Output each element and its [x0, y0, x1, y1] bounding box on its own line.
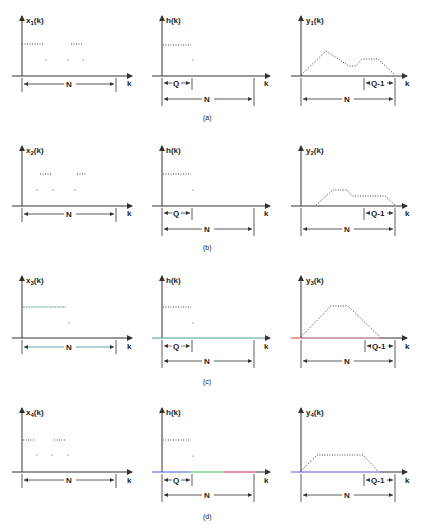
h-label: h(k): [166, 276, 181, 285]
x3-label: x3(k): [26, 276, 44, 286]
k-label: k: [127, 342, 132, 351]
k-label: k: [264, 476, 269, 485]
dim-q1: Q-1: [371, 209, 385, 218]
k-label: k: [405, 209, 410, 218]
x2-label: x2(k): [26, 146, 44, 156]
plot-y2: y2(k) Q-1 N k: [291, 146, 410, 236]
dim-n: N: [204, 357, 210, 366]
dim-n: N: [344, 95, 350, 104]
dim-n: N: [66, 343, 72, 352]
k-label: k: [264, 209, 269, 218]
plot-h-c: h(k) Q N k (c): [152, 276, 270, 386]
row-a: x1(k) N k h(k) Q N k: [12, 16, 410, 122]
row-d: x4(k) N k h(k) Q: [12, 408, 410, 521]
k-label: k: [127, 209, 132, 218]
plot-y1: y1(k) Q-1 N k: [291, 16, 410, 106]
x4-label: x4(k): [26, 408, 44, 418]
dim-n: N: [66, 476, 72, 485]
k-label: k: [405, 476, 410, 485]
k-label: k: [264, 79, 269, 88]
dim-n: N: [66, 210, 72, 219]
caption-d: (d): [203, 513, 212, 521]
dim-n: N: [204, 95, 210, 104]
k-label: k: [405, 342, 410, 351]
row-c: x3(k) N k h(k) Q N k (c): [12, 276, 410, 386]
plot-x2: x2(k) N k: [12, 146, 132, 222]
dim-q1: Q-1: [371, 79, 385, 88]
plot-h-d: h(k) Q N k (d): [152, 408, 270, 521]
plot-x1: x1(k) N k: [12, 16, 132, 92]
dim-q1: Q-1: [371, 476, 385, 485]
plot-x3: x3(k) N k: [12, 276, 132, 354]
y3-label: y3(k): [306, 276, 324, 286]
caption-c: (c): [203, 378, 211, 386]
dim-q: Q: [173, 476, 179, 485]
x1-label: x1(k): [26, 16, 44, 26]
y4-label: y4(k): [306, 408, 324, 418]
convolution-diagram: x1(k) N k h(k) Q N k: [0, 0, 423, 530]
k-label: k: [405, 79, 410, 88]
plot-h-a: h(k) Q N k (a): [152, 16, 270, 122]
k-label: k: [127, 476, 132, 485]
h-label: h(k): [166, 146, 181, 155]
dim-q: Q: [173, 209, 179, 218]
dim-n: N: [344, 357, 350, 366]
dim-n: N: [204, 225, 210, 234]
plot-y3: y3(k) Q-1 N k: [291, 276, 410, 368]
dim-n: N: [204, 491, 210, 500]
caption-a: (a): [203, 114, 212, 122]
dim-n: N: [344, 491, 350, 500]
y2-label: y2(k): [306, 146, 324, 156]
k-label: k: [127, 79, 132, 88]
k-label: k: [264, 342, 269, 351]
plot-y4: y4(k) Q-1 N k: [291, 408, 410, 502]
row-b: x2(k) N k h(k) Q N k (: [12, 146, 410, 252]
y1-label: y1(k): [306, 16, 324, 26]
dim-q: Q: [173, 79, 179, 88]
dim-q: Q: [173, 342, 179, 351]
plot-h-b: h(k) Q N k (b): [152, 146, 270, 252]
dim-q1: Q-1: [372, 342, 386, 351]
plot-x4: x4(k) N k: [12, 408, 132, 488]
dim-n: N: [344, 225, 350, 234]
h-label: h(k): [166, 16, 181, 25]
dim-n: N: [66, 80, 72, 89]
caption-b: (b): [203, 244, 212, 252]
h-label: h(k): [166, 408, 181, 417]
